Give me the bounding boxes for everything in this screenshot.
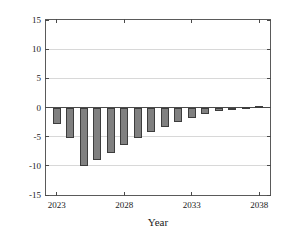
x-axis-tick-top (259, 19, 260, 23)
bar (93, 108, 101, 161)
y-axis-tick-right (267, 20, 271, 21)
bar (201, 108, 209, 114)
y-axis-tick-label: 15 (32, 16, 41, 25)
gridline-y (46, 49, 270, 50)
bar (107, 108, 115, 154)
x-axis-tick-top (124, 19, 125, 23)
plot-area: 151050-5-10-152023202820332038 (45, 19, 271, 196)
x-axis-title: Year (45, 216, 271, 228)
bar (174, 108, 182, 123)
y-axis-tick-right (267, 78, 271, 79)
bar (242, 107, 250, 109)
y-axis-tick-right (267, 107, 271, 108)
bar (255, 106, 263, 108)
chart-figure: Cash Flow, Million $ 151050-5-10-1520232… (0, 0, 293, 239)
x-axis-tick-top (191, 19, 192, 23)
bar (66, 108, 74, 139)
y-axis-tick (45, 136, 49, 137)
x-axis-tick-label: 2033 (183, 201, 201, 210)
x-axis-tick (259, 192, 260, 196)
bar (228, 108, 236, 110)
bar (53, 108, 61, 124)
y-axis-tick (45, 20, 49, 21)
bar (80, 108, 88, 166)
x-axis-tick-top (56, 19, 57, 23)
x-axis-tick-label: 2028 (115, 201, 133, 210)
y-axis-tick-label: 10 (32, 45, 41, 54)
bar (120, 108, 128, 145)
y-axis-tick-right (267, 136, 271, 137)
bar (147, 108, 155, 133)
y-axis-tick-label: -15 (29, 191, 41, 200)
y-axis-tick-label: 5 (37, 74, 42, 83)
gridline-y (46, 78, 270, 79)
plot-inner-canvas (46, 20, 270, 195)
bar (188, 108, 196, 119)
x-axis-tick (191, 192, 192, 196)
y-axis-tick-label: -5 (34, 132, 42, 141)
x-axis-tick-label: 2023 (48, 201, 66, 210)
bar (134, 108, 142, 138)
bar (215, 108, 223, 112)
y-axis-tick-right (267, 195, 271, 196)
y-axis-tick (45, 49, 49, 50)
x-axis-tick (124, 192, 125, 196)
y-axis-tick-right (267, 165, 271, 166)
x-axis-tick-label: 2038 (250, 201, 268, 210)
y-axis-tick (45, 107, 49, 108)
y-axis-tick-label: 0 (37, 103, 42, 112)
y-axis-tick (45, 165, 49, 166)
y-axis-tick-right (267, 49, 271, 50)
y-axis-tick (45, 78, 49, 79)
x-axis-tick (56, 192, 57, 196)
y-axis-tick-label: -10 (29, 161, 41, 170)
bar (161, 108, 169, 128)
y-axis-tick (45, 195, 49, 196)
